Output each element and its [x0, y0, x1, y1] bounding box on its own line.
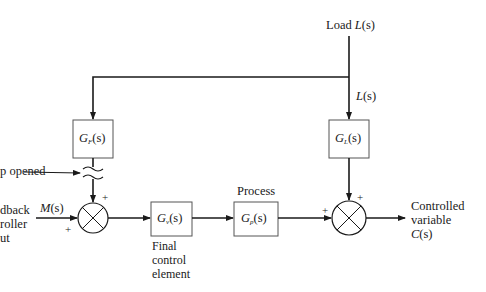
- c-arg: (s): [419, 227, 432, 241]
- gp-block-label: Gp(s): [241, 211, 267, 229]
- sum1-left-sign: +: [65, 224, 71, 235]
- gl-name: G: [335, 131, 344, 145]
- m-symbol: M: [40, 201, 50, 215]
- load-branch-arg: (s): [363, 89, 376, 103]
- feedforward-branch-line: [93, 77, 349, 119]
- load-branch-symbol: L: [356, 89, 363, 103]
- gl-block-label: GL(s): [335, 131, 361, 149]
- gp-name: G: [241, 211, 250, 225]
- gp-arg: (s): [254, 211, 267, 225]
- fb-line-1: dback: [0, 203, 30, 217]
- summing-junction-1: [78, 203, 108, 233]
- block-diagram-canvas: [0, 0, 486, 292]
- gv-name: G: [157, 211, 166, 225]
- load-arg: (s): [362, 18, 375, 32]
- caption-line-3: element: [152, 267, 190, 281]
- feedback-controller-output-label: dback roller ut: [0, 203, 30, 245]
- load-symbol: L: [355, 18, 362, 32]
- gf-name: G: [79, 131, 88, 145]
- summing-junction-2: [332, 201, 366, 235]
- loop-break-symbol: [83, 158, 103, 202]
- caption-line-1: Final: [152, 239, 190, 253]
- gv-block-label: Gv(s): [157, 211, 182, 229]
- gl-arg: (s): [348, 131, 361, 145]
- gv-arg: (s): [169, 211, 182, 225]
- caption-line-2: control: [152, 253, 190, 267]
- loop-opened-label: p opened: [0, 164, 45, 178]
- load-prefix: Load: [326, 18, 355, 32]
- gf-block-label: GF(s): [79, 131, 106, 149]
- sum2-left-sign: +: [322, 205, 328, 216]
- output-line-1: Controlled: [411, 199, 464, 213]
- load-label: Load L(s): [326, 18, 375, 32]
- gf-arg: (s): [92, 131, 105, 145]
- load-branch-label: L(s): [356, 89, 376, 103]
- fb-line-2: roller: [0, 217, 30, 231]
- process-caption: Process: [237, 184, 275, 198]
- output-line-2: variable: [411, 213, 464, 227]
- controlled-variable-label: Controlled variable C(s): [411, 199, 464, 241]
- sum1-top-sign: +: [102, 192, 108, 203]
- m-arg: (s): [50, 201, 63, 215]
- fb-line-3: ut: [0, 231, 30, 245]
- sum2-top-sign: +: [357, 192, 363, 203]
- output-symbol-line: C(s): [411, 227, 464, 241]
- final-control-element-caption: Final control element: [152, 239, 190, 281]
- m-signal-label: M(s): [40, 201, 64, 215]
